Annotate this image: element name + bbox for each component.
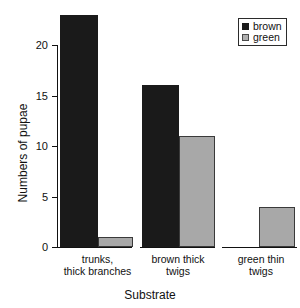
y-tick-5 xyxy=(52,197,58,198)
x-group-label-3-line1: green thin xyxy=(205,253,300,265)
y-tick-15 xyxy=(52,96,58,97)
bar-green-green-thin-twigs xyxy=(259,207,295,247)
bar-chart: 20 15 10 5 0 Numbers of pupae trunks, th… xyxy=(0,0,300,308)
y-tick-label-0: 0 xyxy=(8,242,48,253)
legend-label-green: green xyxy=(253,32,280,43)
legend: brown green xyxy=(238,18,287,46)
x-group-label-3-line2: twigs xyxy=(205,265,300,277)
bar-brown-brown-thick-twigs xyxy=(142,85,179,247)
y-tick-20 xyxy=(52,45,58,46)
plot-area: 20 15 10 5 0 Numbers of pupae trunks, th… xyxy=(0,0,300,308)
x-axis-title: Substrate xyxy=(0,288,300,302)
legend-swatch-green-icon xyxy=(242,34,249,41)
legend-item-green: green xyxy=(242,32,282,43)
y-tick-10 xyxy=(52,146,58,147)
x-baseline-group-2 xyxy=(140,247,215,248)
bar-brown-trunks-thick-branches xyxy=(60,15,98,247)
x-group-label-3: green thin twigs xyxy=(205,253,300,277)
y-axis-title: Numbers of pupae xyxy=(16,83,30,223)
bar-green-brown-thick-twigs xyxy=(179,136,215,247)
x-baseline-group-1 xyxy=(57,247,132,248)
bar-green-trunks-thick-branches xyxy=(98,237,133,247)
y-tick-label-20: 20 xyxy=(8,40,48,51)
legend-swatch-brown-icon xyxy=(242,23,249,30)
x-baseline-group-3 xyxy=(222,247,297,248)
